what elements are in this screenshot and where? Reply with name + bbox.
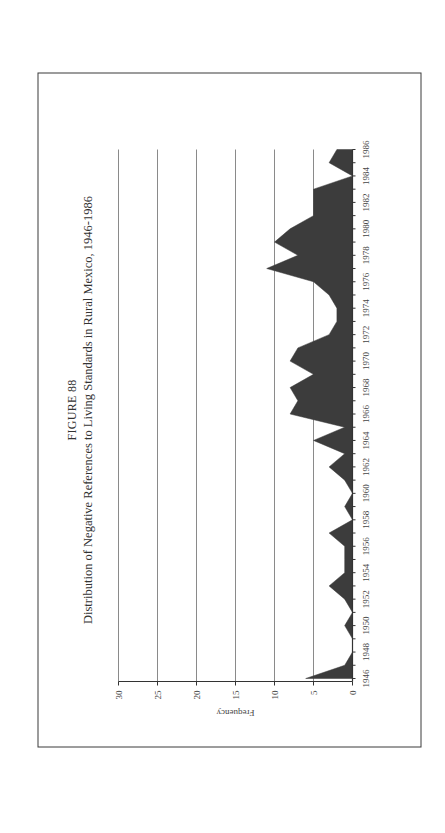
x-tick-label: 1950 bbox=[360, 616, 370, 635]
x-tick-label: 1982 bbox=[360, 193, 370, 211]
x-tick-label: 1972 bbox=[360, 325, 370, 343]
x-tick-label: 1980 bbox=[360, 219, 370, 238]
x-tick-label: 1958 bbox=[360, 510, 370, 529]
y-tick-label: 0 bbox=[347, 690, 357, 695]
figure-frame: FIGURE 88 Distribution of Negative Refer… bbox=[37, 72, 421, 747]
y-tick-label: 25 bbox=[152, 690, 162, 700]
x-tick-label: 1966 bbox=[360, 404, 370, 423]
y-axis-title: Frequency bbox=[216, 707, 254, 717]
x-tick-label: 1954 bbox=[360, 563, 370, 582]
x-tick-label: 1974 bbox=[360, 298, 370, 317]
y-tick-label: 5 bbox=[308, 690, 318, 695]
y-tick-label: 10 bbox=[269, 690, 279, 700]
area-series bbox=[266, 149, 352, 678]
y-tick-label: 15 bbox=[230, 690, 240, 700]
area-chart: 0510152025301946194819501952195419561958… bbox=[38, 71, 422, 746]
x-tick-label: 1960 bbox=[360, 483, 370, 502]
y-tick-label: 20 bbox=[191, 690, 201, 700]
x-tick-label: 1956 bbox=[360, 536, 370, 555]
x-tick-label: 1962 bbox=[360, 457, 370, 475]
x-tick-label: 1946 bbox=[360, 669, 370, 688]
x-tick-label: 1978 bbox=[360, 245, 370, 264]
y-tick-label: 30 bbox=[113, 690, 123, 700]
x-tick-label: 1964 bbox=[360, 430, 370, 449]
x-tick-label: 1984 bbox=[360, 166, 370, 185]
x-tick-label: 1968 bbox=[360, 378, 370, 397]
x-tick-label: 1986 bbox=[360, 140, 370, 159]
x-tick-label: 1952 bbox=[360, 590, 370, 608]
x-tick-label: 1948 bbox=[360, 642, 370, 661]
x-tick-label: 1976 bbox=[360, 272, 370, 291]
x-tick-label: 1970 bbox=[360, 351, 370, 370]
page: FIGURE 88 Distribution of Negative Refer… bbox=[37, 72, 421, 747]
